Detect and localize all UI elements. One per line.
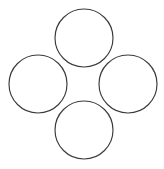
figure-canvas [0, 0, 164, 169]
background-rect [0, 0, 164, 169]
four-circles-diagram [0, 0, 164, 169]
